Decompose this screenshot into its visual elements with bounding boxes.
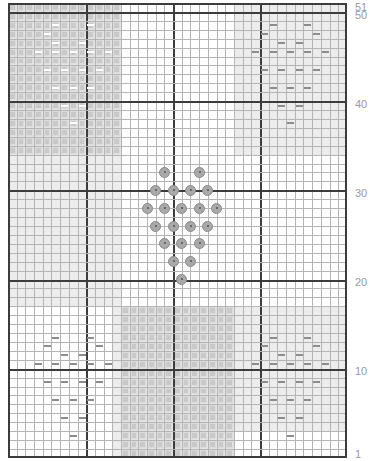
stitch-chart-grid [8, 3, 347, 458]
row-label: 10 [355, 366, 367, 377]
chart-border [8, 3, 347, 458]
row-label: 1 [355, 449, 361, 460]
row-label: 40 [355, 99, 367, 110]
row-label: 50 [355, 10, 367, 21]
row-label: 30 [355, 188, 367, 199]
row-label: 20 [355, 277, 367, 288]
